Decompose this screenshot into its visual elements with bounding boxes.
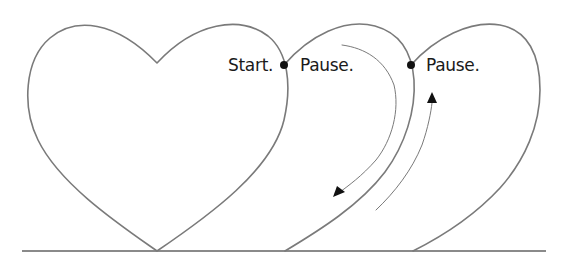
up-arrow-path <box>376 103 432 210</box>
start-point-dot <box>280 61 288 69</box>
start-label: Start. <box>228 57 273 74</box>
up-arrow-head <box>427 92 437 103</box>
down-arrow-head <box>333 186 345 197</box>
diagram-canvas <box>0 0 569 265</box>
pause-label-2: Pause. <box>426 57 480 74</box>
heart-motion-diagram: Start. Pause. Pause. <box>0 0 569 265</box>
pause-point-dot <box>407 61 415 69</box>
pause-label-1: Pause. <box>300 57 354 74</box>
